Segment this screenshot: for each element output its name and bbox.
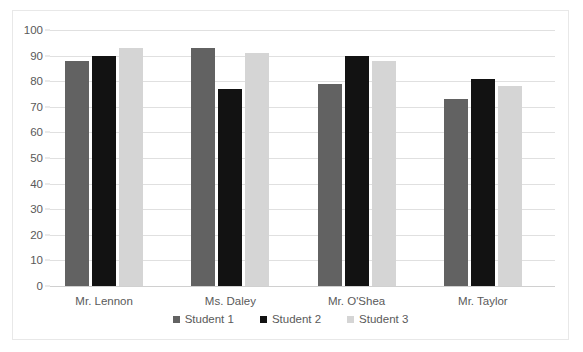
y-axis-tick-label: 20 bbox=[30, 229, 43, 241]
legend-label: Student 2 bbox=[272, 313, 321, 325]
bar-student-1[interactable] bbox=[318, 84, 342, 286]
bar-group: Mr. Taylor bbox=[444, 30, 522, 286]
y-axis-tick-label: 80 bbox=[30, 75, 43, 87]
legend-label: Student 3 bbox=[359, 313, 408, 325]
bar-student-2[interactable] bbox=[92, 56, 116, 286]
y-axis-tick-label: 100 bbox=[24, 24, 43, 36]
y-axis-tick-label: 10 bbox=[30, 254, 43, 266]
chart-container: 1009080706050403020100 Mr. LennonMs. Dal… bbox=[12, 10, 569, 340]
y-axis-tick-label: 40 bbox=[30, 178, 43, 190]
y-axis-tick-label: 50 bbox=[30, 152, 43, 164]
bar-student-1[interactable] bbox=[65, 61, 89, 286]
bar-student-3[interactable] bbox=[245, 53, 269, 286]
chart-legend: Student 1Student 2Student 3 bbox=[13, 313, 568, 325]
legend-label: Student 1 bbox=[185, 313, 234, 325]
plot-area: 1009080706050403020100 Mr. LennonMs. Dal… bbox=[50, 30, 555, 296]
legend-item[interactable]: Student 2 bbox=[260, 313, 321, 325]
y-axis-tick-label: 0 bbox=[37, 280, 43, 292]
x-axis-category-label: Mr. Lennon bbox=[75, 295, 133, 307]
legend-item[interactable]: Student 1 bbox=[173, 313, 234, 325]
bar-group: Ms. Daley bbox=[191, 30, 269, 286]
bar-group: Mr. O'Shea bbox=[318, 30, 396, 286]
bar-group: Mr. Lennon bbox=[65, 30, 143, 286]
legend-swatch-icon bbox=[173, 316, 180, 323]
bar-student-2[interactable] bbox=[345, 56, 369, 286]
y-axis-tick-label: 90 bbox=[30, 50, 43, 62]
bar-student-2[interactable] bbox=[218, 89, 242, 286]
legend-swatch-icon bbox=[347, 316, 354, 323]
x-axis-category-label: Mr. Taylor bbox=[458, 295, 508, 307]
bars-layer: Mr. LennonMs. DaleyMr. O'SheaMr. Taylor bbox=[50, 30, 555, 286]
legend-swatch-icon bbox=[260, 316, 267, 323]
y-axis-tick-label: 30 bbox=[30, 203, 43, 215]
bar-student-1[interactable] bbox=[191, 48, 215, 286]
bar-student-3[interactable] bbox=[119, 48, 143, 286]
x-axis-category-label: Ms. Daley bbox=[205, 295, 256, 307]
legend-item[interactable]: Student 3 bbox=[347, 313, 408, 325]
y-axis-tick-label: 60 bbox=[30, 126, 43, 138]
bar-student-3[interactable] bbox=[498, 86, 522, 286]
bar-student-3[interactable] bbox=[372, 61, 396, 286]
axis-baseline bbox=[50, 286, 555, 287]
x-axis-category-label: Mr. O'Shea bbox=[328, 295, 385, 307]
bar-student-1[interactable] bbox=[444, 99, 468, 286]
bar-student-2[interactable] bbox=[471, 79, 495, 286]
y-axis-tick-label: 70 bbox=[30, 101, 43, 113]
